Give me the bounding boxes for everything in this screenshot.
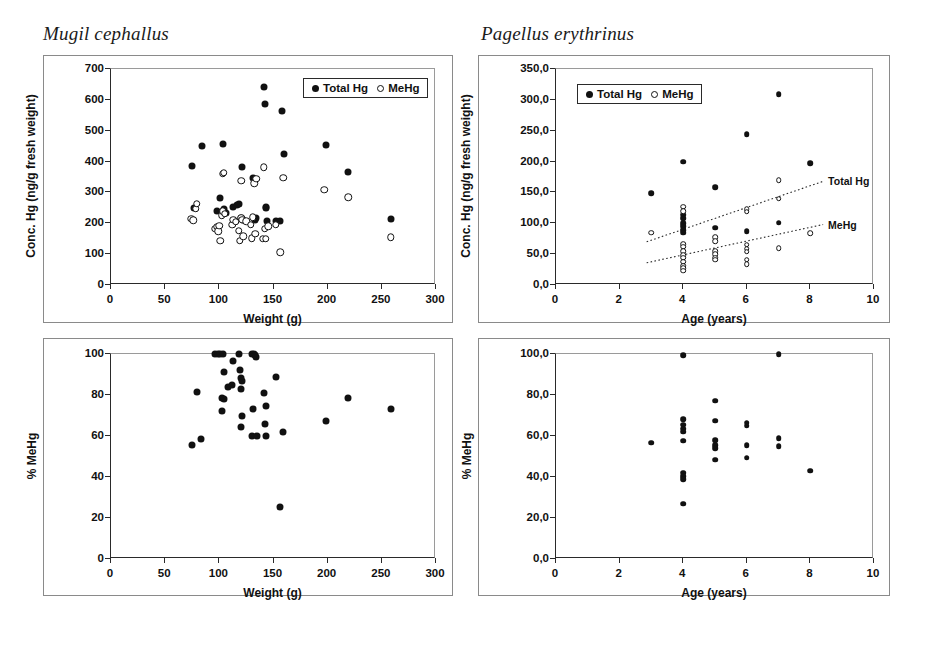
data-point-total-hg xyxy=(712,398,718,404)
data-point-mehg xyxy=(237,177,245,185)
panel-pagellus-pct-mehg-vs-age: 0,020,040,060,080,0100,00246810Age (year… xyxy=(478,338,890,596)
y-tick-mark xyxy=(550,517,555,518)
data-point-total-hg xyxy=(281,151,288,158)
data-point-mehg xyxy=(744,249,750,255)
data-point-total-hg xyxy=(220,396,227,403)
x-axis-title: Age (years) xyxy=(555,312,873,326)
data-point-total-hg xyxy=(261,420,268,427)
x-tick-mark xyxy=(809,558,810,563)
data-point-total-hg xyxy=(239,377,246,384)
y-tick-mark xyxy=(105,435,110,436)
data-point-mehg xyxy=(712,257,718,263)
data-point-total-hg xyxy=(260,389,267,396)
data-point-mehg xyxy=(239,232,247,240)
y-tick-label: 700 xyxy=(44,62,104,74)
data-point-total-hg xyxy=(219,351,226,358)
y-tick-label: 20 xyxy=(44,511,104,523)
trend-line-label: MeHg xyxy=(828,219,857,231)
data-point-total-hg xyxy=(680,230,686,236)
y-tick-label: 60 xyxy=(44,429,104,441)
data-point-mehg xyxy=(193,200,201,208)
data-point-mehg xyxy=(249,213,257,221)
data-point-total-hg xyxy=(239,412,246,419)
data-point-total-hg xyxy=(680,438,686,444)
legend-entry-mehg: MeHg xyxy=(651,88,693,100)
x-tick-mark xyxy=(164,558,165,563)
data-point-mehg xyxy=(744,261,750,267)
data-point-total-hg xyxy=(712,457,718,463)
data-point-mehg xyxy=(712,238,718,244)
y-tick-label: 80 xyxy=(44,388,104,400)
x-tick-label: 150 xyxy=(263,293,282,305)
x-tick-label: 0 xyxy=(107,293,113,305)
x-tick-mark xyxy=(555,558,556,563)
data-point-total-hg xyxy=(260,84,267,91)
legend-label-total-hg: Total Hg xyxy=(323,82,368,94)
data-point-mehg xyxy=(251,230,259,238)
x-tick-label: 10 xyxy=(867,567,880,579)
x-tick-label: 8 xyxy=(806,293,812,305)
y-tick-mark xyxy=(550,191,555,192)
data-point-total-hg xyxy=(712,185,718,191)
data-point-total-hg xyxy=(239,164,246,171)
x-tick-label: 0 xyxy=(107,567,113,579)
data-point-total-hg xyxy=(322,142,329,149)
x-tick-label: 10 xyxy=(867,293,880,305)
y-tick-label: 250,0 xyxy=(479,124,549,136)
data-point-total-hg xyxy=(744,442,750,448)
x-tick-mark xyxy=(619,558,620,563)
y-tick-mark xyxy=(550,161,555,162)
y-axis-title: Conc. Hg (ng/g fresh weight) xyxy=(459,63,473,289)
y-axis-title: Conc. Hg (ng/g fresh weight) xyxy=(24,63,38,289)
x-tick-mark xyxy=(273,284,274,289)
y-tick-label: 600 xyxy=(44,93,104,105)
data-point-mehg xyxy=(680,208,686,214)
y-tick-mark xyxy=(105,68,110,69)
open-circle-icon xyxy=(377,85,384,92)
y-tick-mark xyxy=(105,99,110,100)
x-tick-mark xyxy=(435,558,436,563)
data-point-total-hg xyxy=(776,435,782,441)
filled-circle-icon xyxy=(586,91,593,98)
y-tick-mark xyxy=(105,253,110,254)
data-point-mehg xyxy=(345,193,353,201)
filled-circle-icon xyxy=(312,85,319,92)
x-axis-title: Age (years) xyxy=(555,586,873,600)
y-tick-mark xyxy=(105,517,110,518)
y-tick-label: 300 xyxy=(44,185,104,197)
x-tick-mark xyxy=(809,284,810,289)
data-point-mehg xyxy=(216,222,224,230)
x-tick-label: 250 xyxy=(371,567,390,579)
y-tick-label: 20,0 xyxy=(479,511,549,523)
data-point-total-hg xyxy=(649,190,655,196)
y-tick-mark xyxy=(105,353,110,354)
data-point-mehg xyxy=(217,237,225,245)
data-point-mehg xyxy=(276,249,284,257)
data-point-mehg xyxy=(247,221,255,229)
plot-area-mugil-conc-vs-weight xyxy=(110,68,435,284)
data-point-total-hg xyxy=(235,351,242,358)
x-tick-mark xyxy=(381,284,382,289)
x-tick-mark xyxy=(110,558,111,563)
open-circle-icon xyxy=(651,91,658,98)
y-tick-label: 400 xyxy=(44,155,104,167)
x-tick-label: 200 xyxy=(317,567,336,579)
data-point-mehg xyxy=(649,230,655,236)
y-tick-label: 40,0 xyxy=(479,470,549,482)
y-tick-mark xyxy=(550,130,555,131)
data-point-total-hg xyxy=(744,455,750,461)
data-point-total-hg xyxy=(712,418,718,424)
y-tick-label: 150,0 xyxy=(479,185,549,197)
data-point-total-hg xyxy=(220,369,227,376)
data-point-mehg xyxy=(190,216,198,224)
data-point-total-hg xyxy=(193,388,200,395)
figure-root: Mugil cephallus Pagellus erythrinus 0100… xyxy=(0,0,926,653)
data-point-total-hg xyxy=(189,162,196,169)
x-axis-title: Weight (g) xyxy=(110,586,435,600)
data-point-total-hg xyxy=(744,229,750,235)
data-point-mehg xyxy=(776,245,782,251)
data-point-total-hg xyxy=(199,142,206,149)
y-tick-mark xyxy=(105,161,110,162)
y-tick-label: 0 xyxy=(44,278,104,290)
data-point-mehg xyxy=(272,221,280,229)
